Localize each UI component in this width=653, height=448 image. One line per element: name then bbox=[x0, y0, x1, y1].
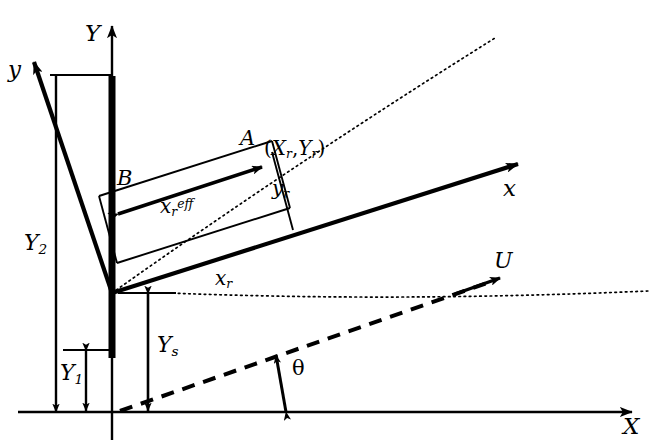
xr-label: xr bbox=[215, 268, 232, 291]
velocity-arrow bbox=[455, 278, 500, 294]
y1-label: Y1 bbox=[60, 362, 83, 386]
coordinate-system-diagram: Y X y x A B (Xr,Yr) yr xr xreff Y2 Y1 Ys… bbox=[0, 0, 653, 448]
dotted-horizontal-reference bbox=[168, 291, 648, 297]
local-x-axis-label: x bbox=[503, 177, 516, 200]
velocity-label: U bbox=[494, 250, 513, 272]
local-y-axis-line bbox=[34, 62, 112, 293]
xr-eff-label: xreff bbox=[160, 196, 193, 219]
y2-label: Y2 bbox=[24, 232, 47, 256]
dotted-diagonal-ray bbox=[112, 38, 495, 293]
coordinate-pair-label: (Xr,Yr) bbox=[264, 138, 325, 161]
local-y-axis-label: y bbox=[8, 58, 21, 81]
point-a-label: A bbox=[240, 128, 255, 149]
yr-label: yr bbox=[272, 178, 289, 201]
local-x-axis-line bbox=[112, 164, 518, 293]
point-b-label: B bbox=[117, 168, 132, 189]
diagram-canvas bbox=[0, 0, 653, 448]
global-x-axis-label: X bbox=[623, 415, 639, 438]
theta-angle-arrow bbox=[276, 355, 286, 412]
ys-label: Ys bbox=[157, 334, 179, 358]
global-y-axis-label: Y bbox=[85, 22, 100, 45]
theta-label: θ bbox=[292, 358, 305, 379]
